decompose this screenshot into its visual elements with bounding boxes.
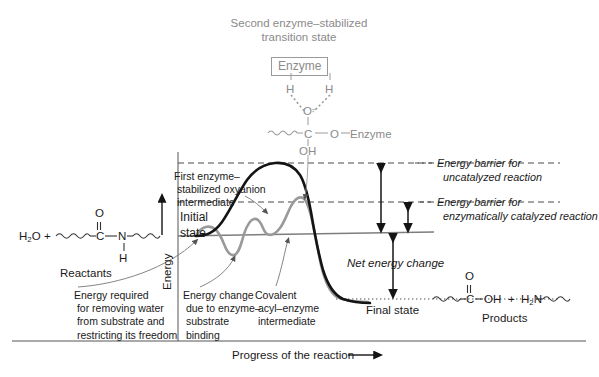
curve-catalyzed bbox=[196, 197, 368, 302]
reactant-squiggle-right bbox=[133, 234, 160, 239]
product-squiggle-right bbox=[543, 297, 570, 302]
figure-canvas: Second enzyme–stabilized transition stat… bbox=[0, 0, 599, 377]
label-final-state: Final state bbox=[366, 303, 419, 317]
y-axis-title: Energy bbox=[160, 254, 174, 290]
reactant-carbon: C bbox=[96, 229, 104, 243]
level-initial-state bbox=[178, 232, 434, 236]
product-amine: H2N bbox=[521, 292, 542, 308]
leader-binding-energy bbox=[200, 258, 234, 287]
label-barrier-catalyzed: Energy barrier for enzymatically catalyz… bbox=[437, 195, 598, 223]
reactant-plus: + bbox=[44, 229, 51, 243]
product-hydroxyl: OH bbox=[484, 292, 501, 306]
label-energy-change-binding: Energy change due to enzyme– substrate b… bbox=[183, 289, 261, 342]
reactant-carbonyl-o: O bbox=[95, 206, 104, 220]
label-barrier-uncatalyzed: Energy barrier for uncatalyzed reaction bbox=[437, 156, 542, 184]
leader-covalent-intermediate bbox=[276, 240, 288, 286]
products-caption: Products bbox=[482, 311, 527, 325]
label-initial-state: Initial state bbox=[180, 209, 208, 241]
product-carbon: C bbox=[466, 292, 474, 306]
product-carbonyl-o: O bbox=[465, 269, 474, 283]
product-plus: + bbox=[508, 292, 515, 306]
label-first-intermediate: First enzyme– stabilized oxyanion interm… bbox=[174, 170, 266, 209]
reactant-nitrogen: N bbox=[118, 229, 126, 243]
x-axis-title: Progress of the reaction bbox=[232, 348, 354, 362]
reactant-squiggle-left bbox=[56, 234, 90, 239]
reactant-water: H2O bbox=[19, 229, 41, 245]
label-net-energy-change: Net energy change bbox=[347, 256, 444, 270]
reactants-caption: Reactants bbox=[60, 266, 112, 280]
label-energy-required-water: Energy required for removing water from … bbox=[74, 289, 177, 342]
reactant-amide-h: H bbox=[119, 251, 127, 265]
label-covalent-intermediate: Covalent acyl–enzyme intermediate bbox=[255, 289, 319, 329]
